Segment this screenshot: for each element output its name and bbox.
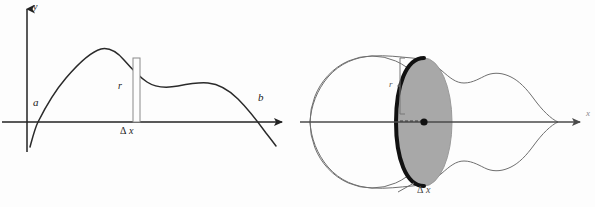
left-endpoint-label-a: a	[33, 97, 39, 108]
right-delta-x-label: Δ x	[417, 185, 430, 195]
left-panel-group	[2, 9, 282, 152]
left-endpoint-label-b: b	[258, 92, 264, 103]
left-representative-rectangle	[133, 58, 140, 122]
left-curve-fx	[30, 49, 276, 147]
right-x-axis-label: x	[586, 109, 590, 118]
disk-center-dot	[420, 118, 427, 125]
left-delta-x-label: Δ x	[120, 126, 133, 136]
left-y-axis-label: y	[33, 2, 37, 12]
right-radius-label-r: r	[389, 80, 393, 89]
figure-canvas	[0, 0, 595, 207]
right-panel-group	[300, 56, 580, 192]
left-delta-x-variable: x	[129, 125, 133, 136]
figure-root: y a b r Δ x r Δ x x	[0, 0, 595, 207]
left-radius-label-r: r	[118, 81, 122, 91]
right-delta-x-variable: x	[426, 184, 430, 195]
